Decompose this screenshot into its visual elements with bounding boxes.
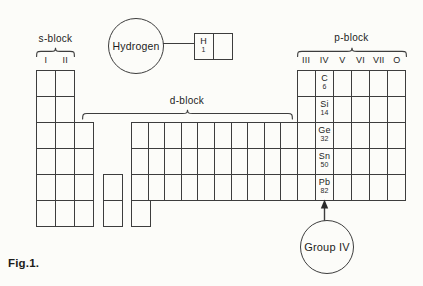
element-number: 1: [202, 46, 206, 54]
grid-cell: [182, 149, 198, 174]
grid-cell: [388, 175, 405, 200]
d-block-label: d-block: [147, 95, 227, 106]
p-block-grid: C 6 Si 14 Ge 32 Sn 50 Pb 82: [297, 70, 406, 201]
grid-cell: [370, 149, 387, 174]
element-cell-germanium: Ge 32: [316, 123, 333, 148]
hydrogen-cell-pair: H 1: [194, 33, 233, 60]
grid-cell: [281, 149, 297, 174]
grid-cell: [334, 149, 351, 174]
grid-cell: [352, 97, 369, 122]
grid-cell: [37, 201, 55, 226]
grid-cell: [149, 175, 165, 200]
grid-cell: [149, 123, 165, 148]
grid-cell: [132, 175, 148, 200]
p-block-group-headers: III IV V VI VII O: [297, 55, 406, 66]
element-cell-silicon: Si 14: [316, 97, 333, 122]
s-block-grid-top: [36, 70, 75, 123]
grid-cell: [37, 175, 55, 200]
grid-cell: [370, 71, 387, 96]
grid-cell: [352, 123, 369, 148]
grid-cell: [388, 123, 405, 148]
grid-cell: [37, 97, 55, 122]
grid-cell: [37, 123, 55, 148]
group-label-VI: VI: [351, 55, 369, 66]
grid-cell: [165, 149, 181, 174]
grid-cell: [56, 97, 74, 122]
element-cell-lead: Pb 82: [316, 175, 333, 200]
d-block-brace: [82, 109, 293, 120]
grid-cell: [182, 175, 198, 200]
hydrogen-callout-label: Hydrogen: [112, 40, 159, 52]
group-iv-callout-label: Group IV: [304, 241, 350, 253]
grid-cell: [165, 175, 181, 200]
grid-cell: [370, 123, 387, 148]
element-symbol: C: [321, 73, 328, 83]
grid-cell: [388, 149, 405, 174]
grid-cell: [370, 97, 387, 122]
grid-cell: [265, 149, 281, 174]
grid-cell: [265, 123, 281, 148]
grid-cell: [198, 123, 214, 148]
grid-cell: [215, 123, 231, 148]
grid-cell: [56, 201, 74, 226]
group-label-VII: VII: [370, 55, 388, 66]
element-symbol: Ge: [318, 125, 330, 135]
element-symbol: Pb: [319, 177, 330, 187]
element-cell-tin: Sn 50: [316, 149, 333, 174]
grid-cell: [334, 71, 351, 96]
grid-cell: [56, 123, 74, 148]
s-block-label: s-block: [36, 33, 75, 44]
element-number: 82: [321, 187, 329, 195]
element-symbol: Si: [320, 99, 328, 109]
grid-cell: [388, 71, 405, 96]
element-cell-carbon: C 6: [316, 71, 333, 96]
element-number: 50: [321, 161, 329, 169]
grid-cell: [265, 175, 281, 200]
grid-cell: [388, 97, 405, 122]
group-label-V: V: [333, 55, 351, 66]
grid-cell: [298, 97, 315, 122]
grid-cell: [232, 149, 248, 174]
hydrogen-connector-line: [163, 43, 194, 44]
grid-cell: [298, 71, 315, 96]
grid-cell: [352, 149, 369, 174]
grid-cell: [75, 201, 93, 226]
group-iv-callout-circle: Group IV: [300, 220, 354, 274]
hydrogen-callout-circle: Hydrogen: [108, 18, 164, 74]
grid-cell: [198, 149, 214, 174]
element-number: 14: [321, 109, 329, 117]
grid-cell: [37, 149, 55, 174]
grid-cell: [334, 123, 351, 148]
grid-cell: [132, 201, 150, 226]
group-label-II: II: [56, 55, 76, 66]
group-label-III: III: [297, 55, 315, 66]
grid-cell: [104, 175, 122, 200]
grid-cell: [352, 175, 369, 200]
hydrogen-element-cell: H 1: [195, 34, 213, 59]
d-block-grid: [131, 122, 298, 201]
grid-cell: [149, 149, 165, 174]
grid-cell: [75, 123, 93, 148]
grid-cell: [165, 123, 181, 148]
element-number: 32: [321, 135, 329, 143]
grid-cell: [198, 175, 214, 200]
group-label-O: O: [388, 55, 406, 66]
d-block-period7-cell: [131, 200, 151, 227]
grid-cell: [132, 149, 148, 174]
periodic-table-block-diagram: s-block I II d-block p-block III IV V VI…: [0, 0, 423, 286]
grid-cell: [232, 123, 248, 148]
grid-cell: [248, 175, 264, 200]
grid-cell: [370, 175, 387, 200]
grid-cell: [104, 201, 122, 226]
grid-cell: [56, 175, 74, 200]
grid-cell: [75, 149, 93, 174]
grid-cell: [232, 175, 248, 200]
grid-cell: [37, 71, 55, 96]
group-label-IV: IV: [315, 55, 333, 66]
grid-cell: [352, 71, 369, 96]
grid-cell: [248, 149, 264, 174]
grid-cell: [281, 175, 297, 200]
grid-cell: [182, 123, 198, 148]
element-number: 6: [323, 83, 327, 91]
grid-cell: [298, 149, 315, 174]
